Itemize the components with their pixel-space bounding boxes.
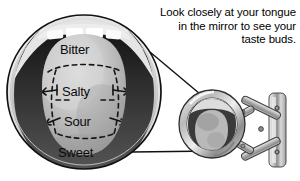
extendable-wall-mirror <box>179 90 286 167</box>
mirror-head <box>179 90 245 158</box>
taste-zone-label-salty: Salty <box>62 84 90 99</box>
mirror-wall-plate <box>269 93 286 167</box>
illustration-canvas: Look closely at your tongue in the mirro… <box>0 0 300 181</box>
taste-zone-label-sour: Sour <box>64 114 91 129</box>
taste-zone-label-sweet: Sweet <box>58 145 93 160</box>
taste-zone-label-bitter: Bitter <box>60 42 89 57</box>
instruction-caption: Look closely at your tongue in the mirro… <box>158 6 296 47</box>
